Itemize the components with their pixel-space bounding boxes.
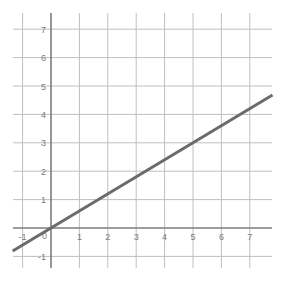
y-tick-label: 7 [41, 25, 46, 35]
x-tick-label: 4 [162, 232, 167, 242]
y-tick-label: 2 [41, 167, 46, 177]
line-graph: -11234567-112345670 [0, 0, 287, 282]
y-tick-label: 6 [41, 53, 46, 63]
x-tick-label: 2 [105, 232, 110, 242]
x-tick-label: 7 [247, 232, 252, 242]
y-tick-label: -1 [38, 252, 46, 262]
y-tick-label: 1 [41, 195, 46, 205]
x-tick-label: 6 [219, 232, 224, 242]
y-tick-label: 3 [41, 138, 46, 148]
x-tick-label: -1 [19, 232, 27, 242]
y-tick-label: 5 [41, 82, 46, 92]
chart-canvas: -11234567-112345670 [0, 0, 287, 282]
x-tick-label: 1 [77, 232, 82, 242]
y-tick-label: 4 [41, 110, 46, 120]
x-tick-label: 3 [134, 232, 139, 242]
x-tick-label: 5 [190, 232, 195, 242]
